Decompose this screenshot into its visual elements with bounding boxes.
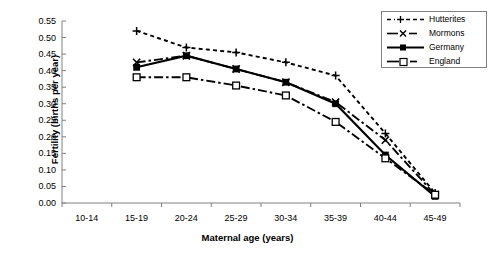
series-mormons bbox=[133, 52, 439, 198]
data-point bbox=[133, 64, 140, 71]
data-point bbox=[232, 48, 240, 56]
data-point bbox=[332, 72, 340, 80]
x-axis-title: Maternal age (years) bbox=[0, 232, 495, 243]
cross-marker-icon bbox=[386, 27, 426, 40]
data-point bbox=[183, 74, 190, 81]
legend-item-1: Mormons bbox=[382, 27, 486, 40]
data-point bbox=[233, 82, 240, 89]
data-point bbox=[282, 79, 289, 86]
legend-label-mormons: Mormons bbox=[429, 28, 464, 38]
data-point bbox=[382, 137, 389, 144]
legend-item-3: England bbox=[382, 55, 486, 68]
data-point bbox=[133, 27, 141, 35]
data-point bbox=[133, 74, 140, 81]
open-square-marker-icon bbox=[386, 55, 426, 68]
data-point bbox=[282, 58, 290, 66]
plus-marker-icon bbox=[386, 13, 426, 26]
fertility-line-chart: Fertility (births per year) 0.550.500.45… bbox=[0, 0, 495, 259]
data-point bbox=[282, 92, 289, 99]
data-point bbox=[432, 191, 439, 198]
data-point bbox=[382, 155, 389, 162]
legend-item-2: Germany bbox=[382, 41, 486, 54]
x-axis-ticks bbox=[62, 203, 460, 207]
data-point bbox=[332, 100, 339, 107]
legend-label-hutterites: Hutterites bbox=[429, 14, 465, 24]
chart-legend: Hutterites Mormons Germany England bbox=[381, 11, 487, 68]
legend-label-england: England bbox=[429, 56, 460, 66]
legend-label-germany: Germany bbox=[429, 42, 464, 52]
legend-item-0: Hutterites bbox=[382, 13, 486, 26]
data-point bbox=[183, 52, 190, 59]
filled-square-marker-icon bbox=[386, 41, 426, 54]
series-england bbox=[133, 74, 438, 198]
data-point bbox=[233, 66, 240, 73]
y-axis-ticks bbox=[62, 21, 66, 203]
data-point bbox=[332, 119, 339, 126]
data-point bbox=[182, 43, 190, 51]
x-tick-label: 45-49 bbox=[405, 213, 465, 223]
series-germany bbox=[133, 52, 438, 199]
